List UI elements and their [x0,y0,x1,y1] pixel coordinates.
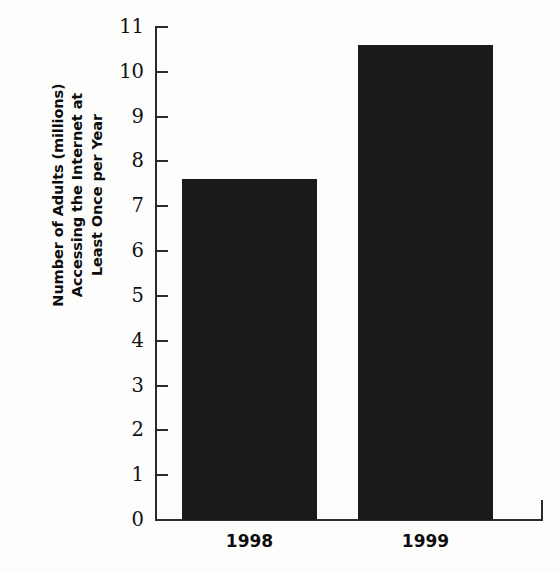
y-axis-tick-label: 7 [104,196,144,216]
y-axis-tick [155,519,168,521]
y-axis-tick [155,250,168,252]
y-axis-tick [155,295,168,297]
y-axis-tick-label: 2 [104,420,144,440]
y-axis-tick [155,385,168,387]
y-axis-tick-label: 1 [104,465,144,485]
bar-1998 [182,179,317,520]
y-axis-tick [155,205,168,207]
y-axis-title-line-1: Number of Adults (millions) [49,83,68,306]
bar-chart: Number of Adults (millions) Accessing th… [0,0,560,571]
y-axis-line [155,26,157,521]
y-axis-tick-label: 6 [104,241,144,261]
y-axis-tick [155,340,168,342]
y-axis-tick [155,160,168,162]
x-axis-label-1999: 1999 [358,531,493,551]
y-axis-tick [155,116,168,118]
y-axis-tick-label: 11 [104,17,144,37]
y-axis-tick-label: 3 [104,376,144,396]
y-axis-tick-label: 9 [104,107,144,127]
x-axis-end-tick [541,500,543,521]
bar-1999 [358,45,493,520]
y-axis-tick-label: 4 [104,331,144,351]
y-axis-tick-label: 8 [104,151,144,171]
y-axis-tick [155,474,168,476]
x-axis-label-1998: 1998 [182,531,317,551]
y-axis-tick-label: 5 [104,286,144,306]
y-axis-tick [155,71,168,73]
y-axis-tick-label: 0 [104,510,144,530]
y-axis-tick [155,26,168,28]
y-axis-title-line-2: Accessing the Internet at [68,83,87,306]
y-axis-tick [155,429,168,431]
y-axis-tick-label: 10 [104,62,144,82]
